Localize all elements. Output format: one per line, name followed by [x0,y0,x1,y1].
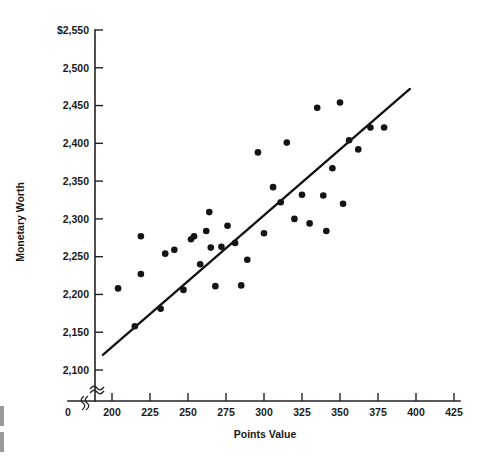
scatter-point [171,247,178,254]
scatter-point [340,200,347,207]
scatter-point [208,244,215,251]
scatter-point [206,209,213,216]
y-tick-label: $2,550 [57,24,89,36]
y-tick-label: 2,400 [63,137,89,149]
page-edge-tab-upper [0,406,4,426]
scatter-point [212,283,219,290]
scatter-point [197,261,204,268]
scatter-plot-figure: 2,1002,1502,2002,2502,3002,3502,4002,450… [0,0,486,473]
page-edge-tab-lower [0,432,4,452]
x-tick-label: 325 [293,406,311,418]
scatter-point [323,228,330,235]
x-tick-label: 225 [141,406,159,418]
scatter-point [314,105,321,112]
y-tick-label: 2,150 [63,326,89,338]
y-axis-title: Monetary Worth [14,182,26,262]
scatter-point [224,222,231,229]
scatter-point [284,139,291,146]
scatter-point [218,244,225,251]
scatter-point [157,306,164,313]
scatter-point [277,199,284,206]
scatter-point [203,228,210,235]
x-tick-label: 250 [179,406,197,418]
x-tick-label: 275 [217,406,235,418]
x-tick-label: 425 [445,406,463,418]
x-origin-label: 0 [65,406,71,418]
scatter-point [291,216,298,223]
y-tick-label: 2,200 [63,288,89,300]
scatter-point [255,149,262,156]
y-tick-label: 2,300 [63,213,89,225]
x-tick-label: 375 [369,406,387,418]
scatter-point [191,233,198,240]
scatter-point [346,137,353,144]
scatter-point [232,240,239,247]
scatter-point [115,285,122,292]
scatter-point [329,165,336,172]
y-axis-break-icon [90,386,104,394]
x-tick-label: 300 [255,406,273,418]
x-tick-label: 200 [103,406,121,418]
scatter-point [320,192,327,199]
scatter-point [132,323,139,330]
scatter-point [162,250,169,257]
scatter-point [138,233,145,240]
regression-trend-line [103,89,410,355]
y-tick-label: 2,350 [63,175,89,187]
scatter-point [306,220,313,227]
x-axis-title: Points Value [234,428,297,440]
y-tick-label: 2,250 [63,250,89,262]
scatter-point [238,282,245,289]
scatter-point [367,124,374,131]
scatter-point [299,191,306,198]
x-tick-label: 400 [407,406,425,418]
x-tick-label: 350 [331,406,349,418]
scatter-point [270,184,277,191]
y-tick-label: 2,450 [63,99,89,111]
y-tick-label: 2,500 [63,62,89,74]
scatter-point [355,146,362,153]
scatter-point [180,287,187,294]
y-tick-label: 2,100 [63,364,89,376]
x-axis-break-icon [81,396,89,410]
scatter-point [337,99,344,106]
scatter-point [381,124,388,131]
scatter-point [138,271,145,278]
scatter-point [261,230,268,237]
scatter-point [244,256,251,263]
